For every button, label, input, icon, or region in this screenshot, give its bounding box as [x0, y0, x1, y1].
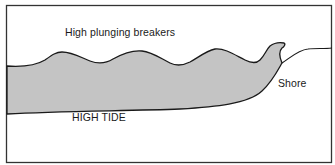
shore-label: Shore — [278, 77, 307, 89]
diagram-frame: High plunging breakers Shore HIGH TIDE — [0, 0, 335, 165]
high-tide-label: HIGH TIDE — [72, 111, 126, 123]
shore-line — [282, 48, 332, 63]
breakers-label: High plunging breakers — [65, 26, 175, 38]
breaking-waves-water — [7, 43, 285, 114]
